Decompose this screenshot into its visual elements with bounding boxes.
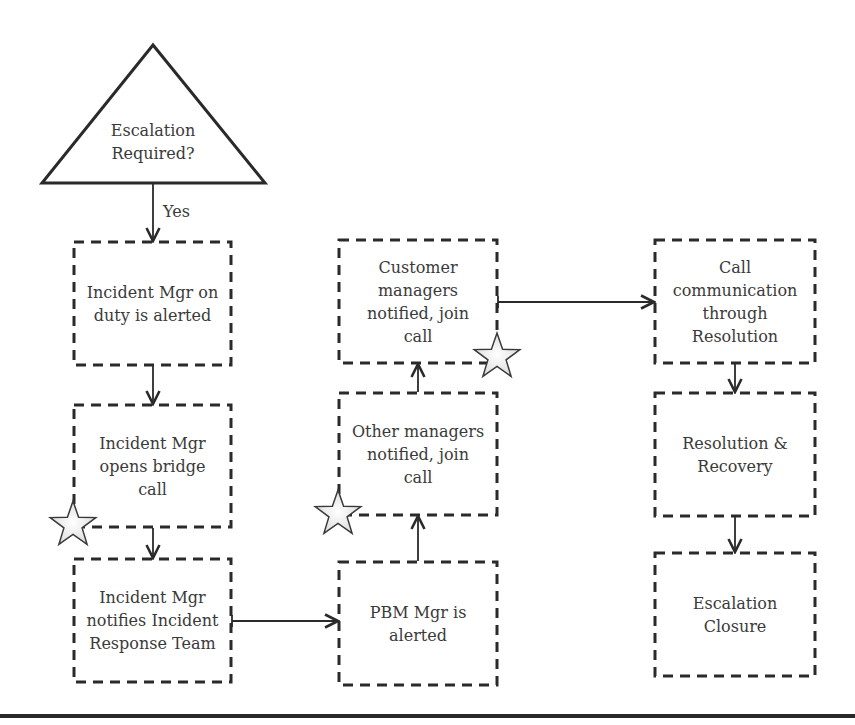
node-label-incident-mgr-alerted: Incident Mgr on duty is alerted [74, 242, 231, 365]
node-label-other-managers: Other managers notified, join call [339, 393, 497, 515]
decision-label: Escalation Required? [82, 110, 224, 174]
node-label-customer-managers: Customer managers notified, join call [339, 240, 497, 363]
bottom-rule [0, 714, 855, 718]
node-label-incident-mgr-bridge: Incident Mgr opens bridge call [74, 405, 231, 527]
node-label-escalation-closure: Escalation Closure [655, 553, 815, 676]
edge-label-yes: Yes [163, 202, 190, 221]
node-label-resolution-recovery: Resolution & Recovery [655, 393, 815, 516]
node-label-incident-mgr-notifies: Incident Mgr notifies Incident Response … [74, 559, 231, 682]
node-label-pbm-mgr-alerted: PBM Mgr is alerted [339, 562, 497, 685]
node-label-call-communication: Call communication through Resolution [655, 240, 815, 363]
